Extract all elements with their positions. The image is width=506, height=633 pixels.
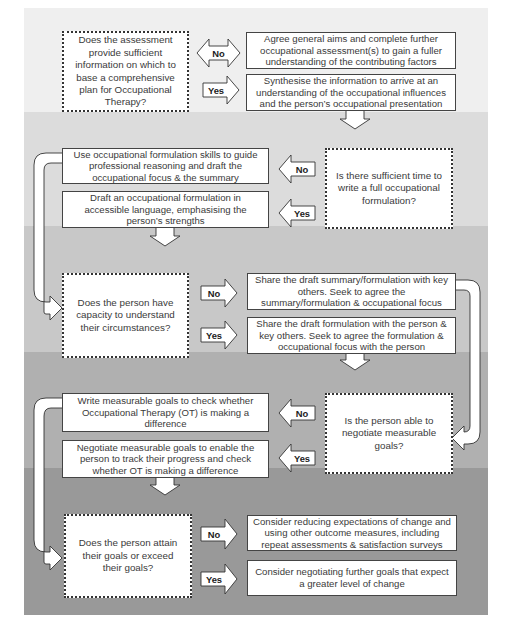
stage1-no-label: No — [206, 46, 231, 60]
stage2-no-outcome-box: Use occupational formulation skills to g… — [62, 148, 269, 184]
stage3-no-outcome-box: Share the draft summary/formulation with… — [247, 273, 456, 310]
stage4-no-arrow: No — [278, 398, 316, 428]
stage1-yes-outcome-box: Synthesise the information to arrive at … — [246, 74, 456, 111]
stage3-yes-outcome-box: Share the draft formulation with the per… — [247, 317, 456, 354]
stage4-no-label: No — [290, 406, 314, 420]
stage4-yes-outcome-box: Negotiate measurable goals to enable the… — [62, 440, 269, 478]
stage4-yes-label: Yes — [290, 451, 314, 465]
stage1-yes-arrow: Yes — [202, 75, 240, 105]
stage2-yes-outcome-box: Draft an occupational formulation in acc… — [62, 191, 269, 228]
stage5-yes-arrow: Yes — [200, 563, 238, 595]
stage1-yes-label: Yes — [204, 83, 228, 97]
stage4-no-outcome-box: Write measurable goals to check whether … — [62, 393, 269, 432]
stage5-yes-outcome-box: Consider negotiating further goals that … — [247, 560, 457, 596]
stage5-no-outcome-box: Consider reducing expectations of change… — [247, 515, 457, 551]
stage5-question-box: Does the person attain their goals or ex… — [64, 514, 192, 598]
stage4-question-box: Is the person able to negotiate measurab… — [325, 393, 453, 474]
stage4-yes-arrow: Yes — [278, 443, 316, 473]
stage2-yes-label: Yes — [290, 206, 314, 220]
stage1-no-arrow: No — [196, 37, 241, 69]
stage3-no-label: No — [202, 286, 226, 300]
stage3-question-box: Does the person have capacity to underst… — [62, 273, 189, 358]
stage5-no-label: No — [202, 527, 226, 541]
stage3-yes-arrow: Yes — [200, 320, 238, 350]
stage2-no-arrow: No — [278, 154, 316, 184]
stage5-yes-label: Yes — [202, 572, 226, 586]
stage1-question-box: Does the assessment provide sufficient i… — [62, 31, 189, 112]
stage2-no-label: No — [290, 162, 314, 176]
stage1-no-outcome-box: Agree general aims and complete further … — [246, 32, 456, 69]
stage2-yes-arrow: Yes — [278, 198, 316, 228]
stage3-no-arrow: No — [200, 278, 238, 308]
stage3-yes-label: Yes — [202, 328, 226, 342]
stage5-no-arrow: No — [200, 518, 238, 550]
stage2-question-box: Is there sufficient time to write a full… — [325, 148, 453, 229]
